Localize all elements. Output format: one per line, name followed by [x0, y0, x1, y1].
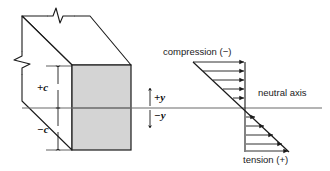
stress-distribution-diagram [193, 62, 289, 152]
label-minus-y: −y [154, 110, 166, 121]
break-top-zigzag-icon [48, 8, 74, 23]
label-plus-c: +c [37, 82, 48, 93]
label-neutral-axis: neutral axis [258, 88, 307, 98]
label-compression: compression (−) [163, 47, 231, 57]
label-plus-y: +y [154, 92, 165, 103]
stress-profile-line [193, 62, 289, 152]
label-minus-c: −c [37, 124, 49, 135]
label-tension: tension (+) [243, 155, 288, 165]
figure-canvas [0, 0, 330, 171]
compression-arrow-group [193, 62, 244, 98]
bending-stress-figure: +c −c +y −y compression (−) tension (+) … [0, 0, 330, 171]
break-left-zigzag-icon [14, 52, 30, 74]
